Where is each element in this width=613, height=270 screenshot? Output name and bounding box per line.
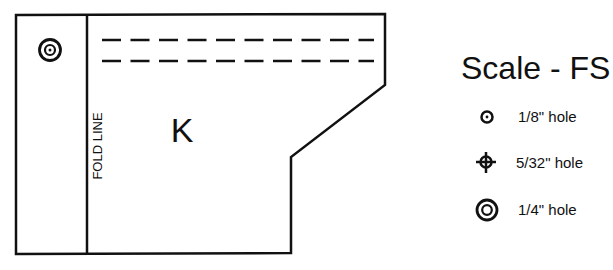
eighth-inch-hole-icon xyxy=(482,112,493,123)
crosshair-hole-icon xyxy=(476,152,496,173)
pattern-outline xyxy=(16,14,385,254)
legend-title: Scale - FS xyxy=(461,50,610,86)
legend-item-label: 5/32" hole xyxy=(516,154,583,171)
quarter-inch-hole-icon xyxy=(40,40,61,61)
pattern-diagram: FOLD LINE K Scale - FS 1/8" hole 5/32" h… xyxy=(0,0,613,270)
legend-item-label: 1/4" hole xyxy=(518,201,577,218)
fold-line-label: FOLD LINE xyxy=(90,112,105,180)
piece-label: K xyxy=(171,111,194,149)
quarter-inch-hole-legend-icon xyxy=(477,200,497,220)
legend-item-label: 1/8" hole xyxy=(518,108,577,125)
